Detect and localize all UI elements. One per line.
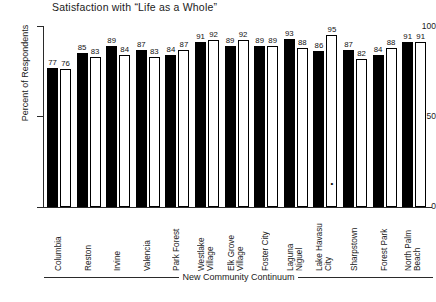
bar-value-label: 91 xyxy=(416,32,425,41)
bar-group: 8695• xyxy=(313,26,337,207)
category-label: Laguna Niguel xyxy=(286,211,306,271)
category-label: North Palm Beach xyxy=(404,211,424,271)
footnote-marker: • xyxy=(330,181,333,187)
bar-value-label: 88 xyxy=(387,38,396,47)
chart-figure: Satisfaction with “Life as a Whole” Perc… xyxy=(0,0,436,302)
bar-dark: 85 xyxy=(77,53,88,207)
bar-dark: 89 xyxy=(225,46,236,207)
category-label: Lake Havasu City xyxy=(315,211,335,271)
category-label: Forest Park xyxy=(380,211,390,271)
bar-value-label: 91 xyxy=(196,32,205,41)
category-label: Irvine xyxy=(113,211,123,271)
bar-value-label: 82 xyxy=(357,49,366,58)
bar-group: 8989 xyxy=(254,26,278,207)
bar-value-label: 89 xyxy=(268,36,277,45)
bar-light: 91 xyxy=(415,42,426,207)
category-label: Park Forest xyxy=(172,211,182,271)
bar-dark: 91 xyxy=(402,42,413,207)
bar-value-label: 85 xyxy=(78,43,87,52)
bar-group: 9388 xyxy=(284,26,308,207)
bar-value-label: 76 xyxy=(61,59,70,68)
bar-group: 8488 xyxy=(373,26,397,207)
bar-value-label: 83 xyxy=(91,47,100,56)
y-axis-title: Percent of Respondents xyxy=(20,3,30,143)
bar-group: 8783 xyxy=(136,26,160,207)
bar-dark: 87 xyxy=(343,50,354,207)
category-label: Elk Grove Village xyxy=(227,211,247,271)
bar-value-label: 84 xyxy=(167,45,176,54)
chart-title: Satisfaction with “Life as a Whole” xyxy=(52,1,217,13)
bar-group: 8583 xyxy=(77,26,101,207)
bar-value-label: 87 xyxy=(344,40,353,49)
bar-value-label: 87 xyxy=(180,40,189,49)
caption-rule-right xyxy=(298,277,433,278)
bar-value-label: 91 xyxy=(403,32,412,41)
bar-light: 82 xyxy=(356,59,367,207)
category-label: Foster City xyxy=(261,211,271,271)
category-label: Columbia xyxy=(54,211,64,271)
bar-light: 95• xyxy=(326,35,337,207)
bar-group: 7776 xyxy=(47,26,71,207)
bar-light: 92 xyxy=(238,40,249,207)
bar-value-label: 93 xyxy=(285,29,294,38)
bar-group: 8782 xyxy=(343,26,367,207)
bar-value-label: 89 xyxy=(255,36,264,45)
x-axis-caption-row: New Community Continuum xyxy=(44,272,433,282)
category-label: Westlake Village xyxy=(197,211,217,271)
bar-value-label: 77 xyxy=(48,58,57,67)
bar-group: 9191 xyxy=(402,26,426,207)
bar-light: 88 xyxy=(386,48,397,207)
caption-rule-left xyxy=(44,277,179,278)
category-label: Reston xyxy=(84,211,94,271)
bar-dark: 77 xyxy=(47,68,58,207)
bar-light: 76 xyxy=(60,69,71,207)
bar-dark: 84 xyxy=(165,55,176,207)
bar-light: 92 xyxy=(208,40,219,207)
bar-light: 83 xyxy=(90,57,101,207)
bar-dark: 89 xyxy=(254,46,265,207)
bar-value-label: 84 xyxy=(374,45,383,54)
bar-group: 8992 xyxy=(225,26,249,207)
bar-value-label: 92 xyxy=(239,30,248,39)
bar-value-label: 88 xyxy=(298,38,307,47)
bar-value-label: 84 xyxy=(120,45,129,54)
bar-value-label: 92 xyxy=(209,30,218,39)
x-axis-caption: New Community Continuum xyxy=(182,272,294,282)
bar-dark: 89 xyxy=(106,46,117,207)
bar-dark: 91 xyxy=(195,42,206,207)
bar-value-label: 86 xyxy=(315,41,324,50)
bar-light: 88 xyxy=(297,48,308,207)
category-label: Valencia xyxy=(143,211,153,271)
bar-value-label: 89 xyxy=(226,36,235,45)
bar-light: 87 xyxy=(178,50,189,207)
bar-light: 84 xyxy=(119,55,130,207)
plot-area: 7776858389848783848791928992898993888695… xyxy=(44,26,433,207)
bar-dark: 84 xyxy=(373,55,384,207)
bar-dark: 86 xyxy=(313,51,324,207)
bar-group: 8984 xyxy=(106,26,130,207)
bar-light: 83 xyxy=(149,57,160,207)
category-label: Sharpstown xyxy=(350,211,360,271)
bar-value-label: 87 xyxy=(137,40,146,49)
bar-value-label: 89 xyxy=(107,36,116,45)
bar-group: 9192 xyxy=(195,26,219,207)
bar-dark: 87 xyxy=(136,50,147,207)
bar-value-label: 83 xyxy=(150,47,159,56)
bar-value-label: 95 xyxy=(328,25,337,34)
bar-light: 89 xyxy=(267,46,278,207)
bar-dark: 93 xyxy=(284,39,295,207)
bar-group: 8487 xyxy=(165,26,189,207)
x-axis-line xyxy=(43,207,432,208)
